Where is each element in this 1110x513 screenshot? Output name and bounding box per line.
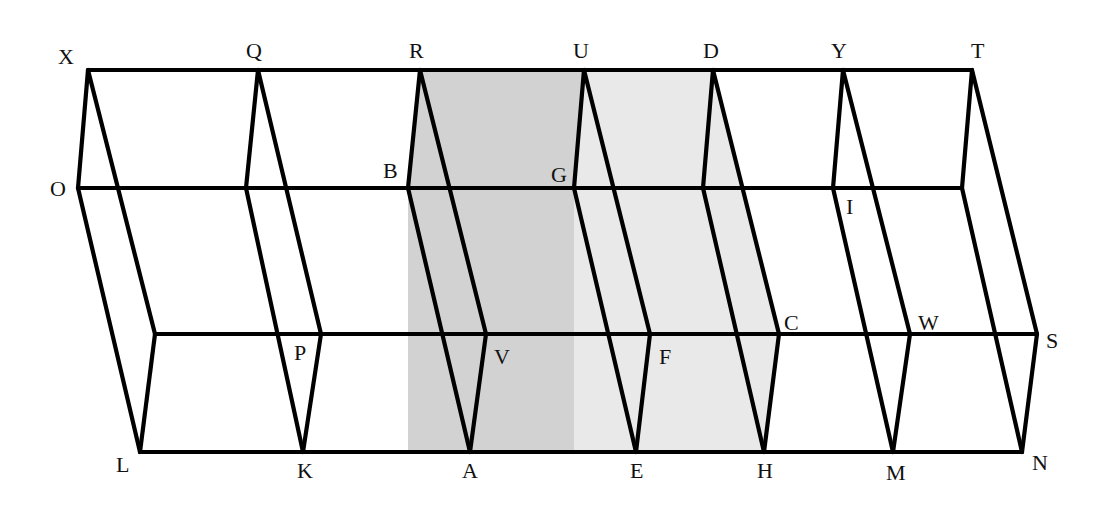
slice-X [78,70,155,452]
vertex-label-U: U [573,38,589,63]
vertex-label-A: A [462,458,478,483]
vertex-label-V: V [494,344,510,369]
vertex-label-L: L [116,452,129,477]
vertex-label-S: S [1046,328,1058,353]
geometry-figure: XQRUDYTOBGIPVFCWSLKAEHMN [0,0,1110,513]
vertex-label-Y: Y [831,38,847,63]
vertex-label-K: K [297,458,313,483]
plane-UDHE-shade [574,70,779,452]
vertex-label-H: H [757,458,773,483]
vertex-label-D: D [703,38,719,63]
shaded-planes [408,70,779,452]
slice-Q [246,70,321,452]
vertex-label-T: T [971,38,985,63]
vertex-label-P: P [294,340,306,365]
vertex-label-C: C [784,310,799,335]
slice-T [962,70,1037,452]
vertex-label-E: E [630,458,643,483]
vertex-label-W: W [918,310,939,335]
vertex-label-I: I [846,194,853,219]
vertex-label-G: G [551,162,567,187]
vertex-label-M: M [886,460,906,485]
vertex-label-X: X [58,44,74,69]
slice-Y [833,70,910,452]
vertex-label-Q: Q [246,38,262,63]
vertex-label-O: O [50,176,66,201]
vertex-label-F: F [659,344,671,369]
vertex-label-R: R [409,38,424,63]
vertex-label-B: B [383,158,398,183]
vertex-label-N: N [1032,450,1048,475]
